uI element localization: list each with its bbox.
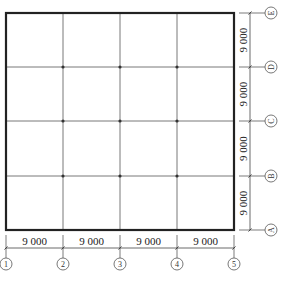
dim-text-row: 9 000	[237, 136, 249, 161]
axis-label-row: A	[267, 227, 276, 233]
grid-plan-drawing: 9 0009 0009 0009 0009 0009 0009 0009 000…	[0, 0, 282, 281]
column-node	[118, 119, 121, 122]
dim-text-row: 9 000	[237, 190, 249, 215]
axis-label-col: 2	[61, 260, 65, 269]
dim-text-col: 9 000	[193, 235, 218, 247]
column-node	[118, 65, 121, 68]
axis-label-col: 5	[232, 260, 236, 269]
axis-label-row: E	[267, 10, 276, 15]
dim-text-row: 9 000	[237, 81, 249, 106]
dim-text-col: 9 000	[22, 235, 47, 247]
column-node	[118, 174, 121, 177]
dim-text-row: 9 000	[237, 27, 249, 52]
column-node	[61, 65, 64, 68]
column-node	[175, 174, 178, 177]
column-node	[61, 174, 64, 177]
axis-label-row: C	[267, 118, 276, 123]
axis-label-col: 4	[175, 260, 179, 269]
axis-label-row: B	[267, 173, 276, 178]
axis-label-col: 1	[4, 260, 8, 269]
dim-text-col: 9 000	[136, 235, 161, 247]
column-node	[175, 119, 178, 122]
dim-text-col: 9 000	[79, 235, 104, 247]
axis-label-row: D	[267, 64, 276, 70]
dimension-lines: 9 0009 0009 0009 0009 0009 0009 0009 000	[5, 12, 266, 259]
column-node	[61, 119, 64, 122]
axis-label-col: 3	[118, 260, 122, 269]
column-node	[175, 65, 178, 68]
